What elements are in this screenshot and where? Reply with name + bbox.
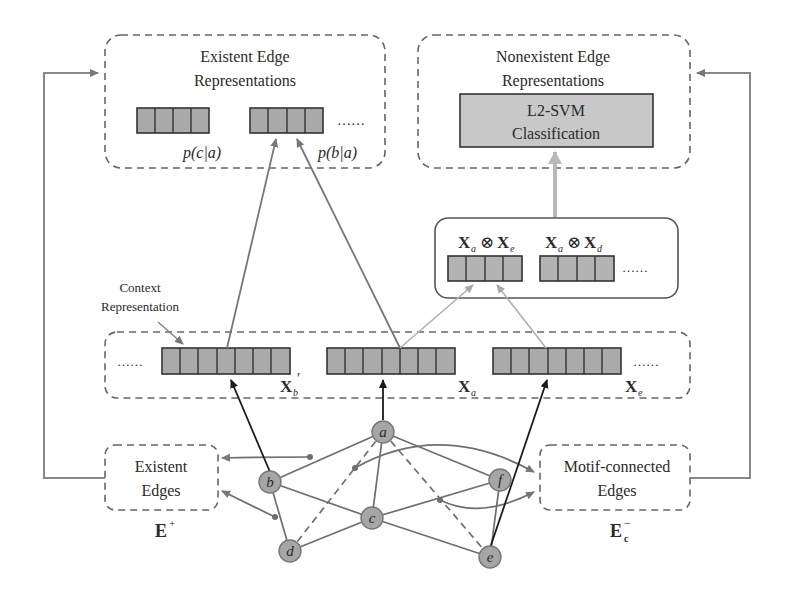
context-vector-e: X e	[493, 348, 643, 398]
panel-title-line1: Existent Edge	[200, 48, 289, 66]
motif-connected-edges-box: Motif-connected Edges E − c	[540, 445, 690, 544]
context-vector-a: X a	[327, 348, 476, 398]
svg-text:d: d	[286, 543, 294, 559]
svg-text:X: X	[497, 233, 510, 252]
feedback-loop-motif	[690, 73, 750, 478]
e-plus-symbol: E	[155, 521, 167, 541]
svg-text:Edges: Edges	[597, 482, 636, 500]
svg-text:e: e	[487, 549, 494, 565]
context-pointer-arrow	[158, 322, 183, 344]
svg-text:c: c	[624, 533, 629, 544]
node-a: a	[372, 421, 394, 443]
classifier-line2: Classification	[512, 125, 600, 142]
svg-text:X: X	[280, 377, 293, 396]
svg-text:′: ′	[297, 370, 300, 386]
arrow-a-to-product	[400, 285, 473, 348]
svg-text:Context: Context	[119, 280, 161, 295]
framework-diagram: Existent Edge Representations …… p(c|a) …	[0, 0, 792, 602]
svg-text:X: X	[545, 233, 558, 252]
edge-vector-c-a	[137, 108, 209, 133]
edge-vector-b-a	[250, 108, 323, 133]
svg-text:X: X	[458, 377, 471, 396]
svg-text:Motif-connected: Motif-connected	[564, 458, 671, 475]
svg-text:e: e	[638, 387, 643, 398]
existent-edge-representations-panel: Existent Edge Representations …… p(c|a) …	[105, 35, 385, 168]
svg-text:Representation: Representation	[101, 299, 179, 314]
arrow-b-prime-to-edge-repr	[227, 139, 276, 348]
svg-text:a: a	[379, 424, 387, 440]
context-vector-b-prime: X b ′	[162, 348, 300, 398]
node-d: d	[279, 540, 301, 562]
node-f: f	[489, 469, 511, 491]
svg-text:X: X	[584, 233, 597, 252]
svg-text:Edges: Edges	[141, 482, 180, 500]
panel-title-line2: Representations	[502, 72, 604, 90]
label-p-b-given-a: p(b|a)	[317, 144, 357, 162]
svg-text:Existent: Existent	[135, 458, 188, 475]
svg-text:X: X	[458, 233, 471, 252]
graph	[222, 432, 534, 557]
label-p-c-given-a: p(c|a)	[182, 144, 221, 162]
svg-text:X: X	[625, 377, 638, 396]
e-c-minus-symbol: E	[610, 521, 622, 541]
context-representation-label: Context Representation	[101, 280, 183, 344]
node-b: b	[259, 471, 281, 493]
svg-text:⊗: ⊗	[480, 233, 494, 252]
existent-edges-box: Existent Edges E +	[105, 445, 218, 541]
panel-title-line2: Representations	[194, 72, 296, 90]
svg-text:b: b	[266, 474, 274, 490]
l2-svm-classifier-box: L2-SVM Classification	[460, 94, 653, 147]
ellipsis-right: ……	[633, 354, 659, 369]
arrow-e-to-context	[490, 380, 547, 548]
svg-text:+: +	[169, 517, 175, 529]
ellipsis-left: ……	[117, 354, 143, 369]
classifier-line1: L2-SVM	[527, 102, 585, 119]
panel-title-line1: Nonexistent Edge	[496, 48, 610, 66]
svg-text:⊗: ⊗	[567, 233, 581, 252]
ellipsis: ……	[337, 113, 365, 128]
ellipsis: ……	[622, 260, 648, 275]
feedback-loop-existent	[44, 73, 105, 478]
svg-text:e: e	[510, 243, 515, 254]
nonexistent-edge-representations-panel: Nonexistent Edge Representations L2-SVM …	[418, 35, 690, 168]
svg-text:c: c	[369, 510, 376, 526]
svg-text:b: b	[293, 387, 298, 398]
node-e: e	[479, 546, 501, 568]
svg-text:a: a	[471, 387, 476, 398]
svg-text:a: a	[558, 243, 563, 254]
svg-text:−: −	[624, 516, 631, 530]
node-c: c	[361, 507, 383, 529]
svg-text:a: a	[471, 243, 476, 254]
arrow-a-to-edge-repr	[297, 139, 400, 348]
